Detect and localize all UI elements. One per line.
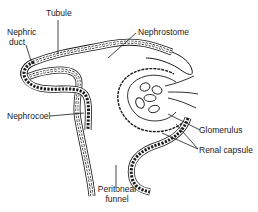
label-tubule: Tubule xyxy=(46,9,72,19)
label-nephrocoel: Nephrocoel xyxy=(7,112,50,122)
nephron-diagram: Tubule Nephric duct Nephrostome Nephroco… xyxy=(0,0,258,212)
nephrostome-tip xyxy=(146,52,192,74)
glomerulus xyxy=(134,76,198,114)
label-peritoneal-funnel-line2: funnel xyxy=(96,195,138,205)
label-nephrostome: Nephrostome xyxy=(138,28,189,38)
nephron-illustration xyxy=(0,0,258,212)
label-glomerulus: Glomerulus xyxy=(199,126,242,136)
label-renal-capsule: Renal capsule xyxy=(199,146,253,156)
label-nephric-duct-line2: duct xyxy=(9,38,25,48)
